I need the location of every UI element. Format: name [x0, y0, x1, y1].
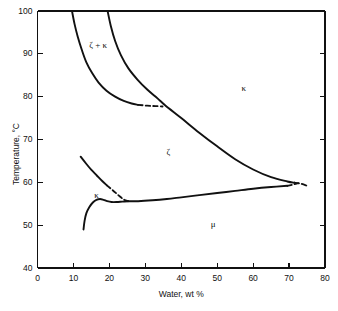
phase-label-zeta: ζ [153, 148, 183, 157]
curve-kappa-dome [84, 199, 129, 229]
axes-frame [38, 11, 326, 268]
y-tick-label-90: 90 [8, 49, 33, 58]
curve-zeta-kappa-lower-boundary [81, 157, 107, 186]
x-tick-label-80: 80 [313, 274, 337, 283]
curve-zeta-kappa-left-boundary [72, 11, 138, 105]
phase-diagram-figure: 01020304050607080405060708090100 ζ + κκζ… [0, 0, 338, 311]
tick-marks [38, 11, 326, 268]
x-tick-label-60: 60 [241, 274, 265, 283]
x-tick-label-40: 40 [169, 274, 193, 283]
x-tick-label-30: 30 [133, 274, 157, 283]
x-tick-label-0: 0 [26, 274, 50, 283]
y-tick-label-50: 50 [8, 221, 33, 230]
y-tick-label-100: 100 [8, 7, 33, 16]
x-tick-label-10: 10 [61, 274, 85, 283]
curve-kappa-liquidus-upper [108, 11, 295, 183]
x-tick-label-50: 50 [205, 274, 229, 283]
x-tick-label-20: 20 [97, 274, 121, 283]
y-tick-label-80: 80 [8, 92, 33, 101]
phase-label-kappa-upper-right: κ [229, 84, 259, 93]
y-tick-label-40: 40 [8, 264, 33, 273]
curve-mu-solvus [128, 186, 287, 201]
phase-label-zeta-plus-kappa: ζ + κ [83, 41, 113, 50]
x-tick-label-70: 70 [277, 274, 301, 283]
x-axis-title: Water, wt % [141, 290, 221, 299]
curve-mu-solvus-dashed [287, 183, 298, 186]
y-axis-title: Temperature, °C [12, 123, 21, 185]
phase-label-kappa-left: κ [81, 191, 111, 200]
curve-zeta-kappa-left-boundary-dashed [138, 105, 162, 107]
phase-label-mu: μ [198, 220, 228, 229]
